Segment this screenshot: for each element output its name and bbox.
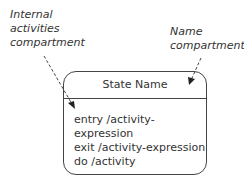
arrowhead-icon [188, 77, 195, 85]
dashed-arrow-line [44, 56, 72, 104]
dashed-arrow-line [192, 58, 201, 78]
arrowhead-icon [68, 101, 75, 109]
pointer-arrows [0, 0, 244, 185]
